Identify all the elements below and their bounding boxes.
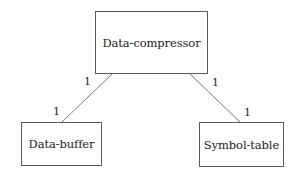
entity-data-compressor: Data-compressor xyxy=(95,11,208,74)
entity-symbol-table: Symbol-table xyxy=(199,122,284,167)
multiplicity-buffer-end: 1 xyxy=(53,106,60,117)
multiplicity-compressor-to-buffer: 1 xyxy=(84,76,91,87)
entity-label: Data-buffer xyxy=(29,137,95,151)
entity-data-buffer: Data-buffer xyxy=(21,122,102,166)
entity-label: Data-compressor xyxy=(102,36,200,50)
entity-label: Symbol-table xyxy=(204,138,279,152)
multiplicity-symbol-end: 1 xyxy=(244,107,251,118)
diagram-canvas: Data-compressor Data-buffer Symbol-table… xyxy=(0,0,294,177)
multiplicity-compressor-to-symbol: 1 xyxy=(212,77,219,88)
